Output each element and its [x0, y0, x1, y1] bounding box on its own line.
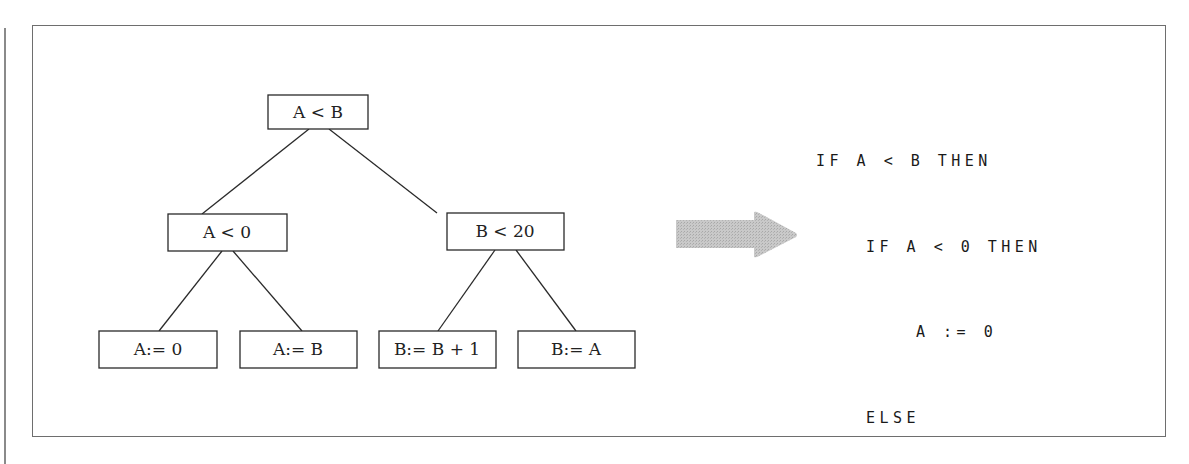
node-label: A < 0	[202, 222, 251, 242]
edge-b20-left	[438, 250, 495, 331]
pseudocode-listing: IF A < B THEN IF A < 0 THEN A := 0 ELSE …	[816, 90, 1055, 464]
node-label: A < B	[292, 102, 343, 122]
right-arrow-icon	[676, 212, 797, 258]
edge-root-left	[202, 129, 309, 214]
edge-b20-right	[516, 250, 576, 331]
code-line: IF A < 0 THEN	[816, 233, 1055, 262]
leaf-label: A:= B	[272, 339, 323, 359]
tree-leaf-a-assign-b: A:= B	[240, 331, 357, 368]
tree-leaf-a-assign-0: A:= 0	[99, 331, 217, 368]
tree-leaf-b-assign-b-plus-1: B:= B + 1	[379, 331, 496, 368]
code-line: A := 0	[816, 318, 1055, 347]
tree-node-a-lt-0: A < 0	[168, 214, 287, 251]
code-line: ELSE	[816, 404, 1055, 433]
leaf-label: B:= A	[551, 339, 602, 359]
tree-node-b-lt-20: B < 20	[447, 213, 564, 250]
leaf-label: A:= 0	[133, 339, 182, 359]
tree-leaf-b-assign-a: B:= A	[518, 331, 635, 368]
tree-node-root: A < B	[268, 95, 368, 129]
edge-a0-right	[233, 251, 302, 331]
code-line: IF A < B THEN	[816, 147, 1055, 176]
edge-a0-left	[159, 251, 222, 331]
node-label: B < 20	[475, 221, 534, 241]
leaf-label: B:= B + 1	[394, 339, 480, 359]
edge-root-right	[329, 129, 437, 213]
